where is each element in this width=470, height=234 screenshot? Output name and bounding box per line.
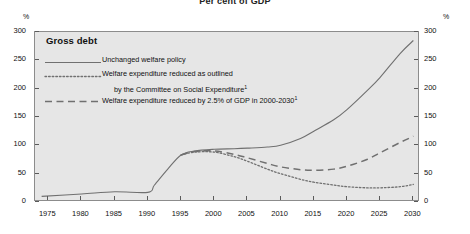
x-tickmark: [180, 196, 181, 200]
y-tick-label-left: 50: [0, 168, 26, 177]
x-tickmark: [412, 196, 413, 200]
x-tick-label: 2030: [392, 209, 432, 218]
x-tickmark: [246, 196, 247, 200]
y-tick-label-right: 100: [424, 139, 450, 148]
y-tick-label-left: 200: [0, 83, 26, 92]
legend-entry: Unchanged welfare policy: [44, 55, 306, 67]
y-tickmark: [35, 201, 39, 202]
legend-entry: Welfare expenditure reduced by 2.5% of G…: [44, 94, 306, 106]
y-tickmark: [414, 59, 418, 60]
legend-label-continued: by the Committee on Social Expenditure1: [102, 83, 306, 94]
legend-entry: Welfare expenditure reduced as outlined: [44, 69, 306, 81]
y-tickmark: [414, 31, 418, 32]
legend-label: Welfare expenditure reduced as outlined: [102, 69, 233, 78]
y-tickmark: [414, 144, 418, 145]
y-tick-label-left: 250: [0, 54, 26, 63]
x-tickmark: [346, 196, 347, 200]
y-tickmark: [414, 116, 418, 117]
chart-figure: Per cent of GDP % % 050100150200250300 0…: [0, 0, 470, 234]
x-tickmark: [213, 196, 214, 200]
x-tickmark: [47, 196, 48, 200]
y-tick-label-right: 0: [424, 196, 450, 205]
y-tick-label-right: 200: [424, 83, 450, 92]
y-tick-label-right: 300: [424, 26, 450, 35]
legend-title: Gross debt: [46, 35, 306, 46]
legend-label: Welfare expenditure reduced by 2.5% of G…: [102, 94, 297, 105]
y-tickmark: [35, 88, 39, 89]
y-tick-label-right: 150: [424, 111, 450, 120]
y-tick-label-left: 100: [0, 139, 26, 148]
y-tickmark: [414, 88, 418, 89]
legend-line-swatch-solid-icon: [44, 58, 102, 67]
chart-legend: Gross debt Unchanged welfare policyWelfa…: [44, 35, 306, 109]
x-tickmark: [147, 196, 148, 200]
y-axis-unit-right: %: [443, 13, 449, 20]
y-tick-label-right: 50: [424, 168, 450, 177]
x-tickmark: [313, 196, 314, 200]
y-tickmark: [414, 173, 418, 174]
y-tickmark: [414, 201, 418, 202]
y-tick-label-right: 250: [424, 54, 450, 63]
x-tickmark: [80, 196, 81, 200]
y-axis-unit-left: %: [23, 13, 29, 20]
chart-title: Per cent of GDP: [0, 0, 470, 6]
legend-line-swatch-dotted-icon: [44, 72, 102, 81]
y-tickmark: [35, 116, 39, 117]
y-tickmark: [35, 173, 39, 174]
x-tickmark: [114, 196, 115, 200]
y-tickmark: [35, 31, 39, 32]
legend-entries: Unchanged welfare policyWelfare expendit…: [44, 55, 306, 106]
series-line-2: [181, 136, 413, 170]
y-tickmark: [35, 144, 39, 145]
legend-line-swatch-dashed-icon: [44, 97, 102, 106]
y-tick-label-left: 0: [0, 196, 26, 205]
x-tickmark: [379, 196, 380, 200]
x-tickmark: [280, 196, 281, 200]
y-tick-label-left: 150: [0, 111, 26, 120]
y-tick-label-left: 300: [0, 26, 26, 35]
y-tickmark: [35, 59, 39, 60]
legend-label: Unchanged welfare policy: [102, 55, 186, 64]
